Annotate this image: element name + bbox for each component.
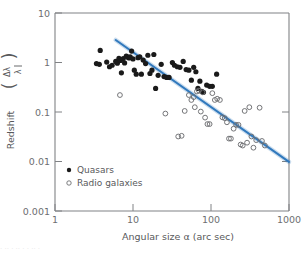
y-tick-label-10: 10: [38, 8, 50, 19]
y-axis-title-numerator: Δλ: [3, 67, 12, 77]
x-tick-label-1000: 1000: [277, 214, 301, 225]
figure-caption-partial: · ·· · ·· · · ·· ·: [0, 245, 307, 254]
y-axis-title-close-paren: ): [0, 53, 19, 60]
y-tick-label-0.01: 0.01: [29, 156, 50, 167]
quasar-data-point: [177, 65, 182, 70]
quasar-data-point: [119, 70, 124, 75]
y-tick-label-0.1: 0.1: [35, 107, 50, 118]
quasar-data-point: [186, 68, 191, 73]
figure-container: 10 1 0.1 0.01 0.001 1 10 100 1000 Angula…: [0, 0, 307, 254]
radio-galaxy-data-point: [257, 105, 262, 110]
radio-galaxy-data-point: [251, 145, 256, 150]
radio-galaxy-data-point: [247, 105, 252, 110]
redshift-vs-angular-size-chart: 10 1 0.1 0.01 0.001 1 10 100 1000 Angula…: [0, 0, 307, 254]
radio-galaxy-data-point: [163, 111, 168, 116]
series-radio-galaxies: [118, 88, 268, 150]
quasar-data-point: [98, 48, 103, 53]
radio-galaxy-data-point: [192, 105, 197, 110]
quasar-data-point: [122, 60, 127, 65]
quasar-data-point: [191, 65, 196, 70]
legend-marker-quasars: [67, 168, 71, 172]
y-axis-title-group: Redshift ( Δλ λ ): [0, 53, 23, 150]
y-tick-label-0.001: 0.001: [23, 206, 50, 217]
x-axis-ticks: [55, 204, 289, 211]
quasar-data-point: [156, 73, 161, 78]
radio-galaxy-data-point: [118, 93, 123, 98]
quasar-data-point: [197, 79, 202, 84]
legend-label-quasars: Quasars: [77, 165, 114, 175]
radio-galaxy-data-point: [245, 140, 250, 145]
radio-galaxy-data-point: [210, 91, 215, 96]
quasar-data-point: [134, 72, 139, 77]
legend: Quasars Radio galaxies: [67, 165, 143, 188]
quasar-data-point: [189, 78, 194, 83]
quasar-data-point: [153, 86, 158, 91]
quasar-data-point: [139, 72, 144, 77]
y-axis-title-open-paren: (: [0, 83, 19, 90]
quasar-data-point: [151, 52, 156, 57]
quasar-data-point: [214, 72, 219, 77]
quasar-data-point: [145, 53, 150, 58]
x-tick-label-100: 100: [202, 214, 220, 225]
radio-galaxy-data-point: [242, 109, 247, 114]
quasar-data-point: [104, 59, 109, 64]
quasar-data-point: [149, 68, 154, 73]
y-axis-title-denominator: λ: [14, 69, 23, 74]
y-axis-title: Redshift: [5, 110, 16, 149]
quasar-data-point: [110, 63, 115, 68]
quasar-data-point: [129, 48, 134, 53]
radio-galaxy-data-point: [179, 133, 184, 138]
quasar-data-point: [97, 62, 102, 67]
legend-label-radio-galaxies: Radio galaxies: [77, 178, 143, 188]
radio-galaxy-data-point: [198, 109, 203, 114]
radio-galaxy-data-point: [182, 109, 187, 114]
x-tick-label-10: 10: [127, 214, 139, 225]
x-tick-label-1: 1: [52, 214, 58, 225]
x-axis-title: Angular size α (arc sec): [122, 231, 234, 242]
y-tick-label-1: 1: [44, 57, 50, 68]
legend-marker-radio-galaxies: [67, 181, 71, 185]
quasar-data-point: [193, 69, 198, 74]
quasar-data-point: [181, 59, 186, 64]
quasar-data-point: [159, 62, 164, 67]
radio-galaxy-data-point: [203, 115, 208, 120]
quasar-data-point: [143, 61, 148, 66]
quasar-data-point: [210, 84, 215, 89]
quasar-data-point: [166, 75, 171, 80]
quasar-data-point: [130, 56, 135, 61]
